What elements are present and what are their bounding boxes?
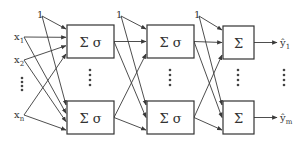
bias-label: 1 bbox=[37, 9, 43, 20]
output-ellipsis bbox=[283, 79, 286, 82]
connection-arrow bbox=[199, 16, 222, 105]
vertical-ellipsis bbox=[237, 84, 240, 87]
connection-arrow bbox=[42, 16, 66, 29]
node-label: Σ bbox=[234, 36, 243, 51]
node-label: Σ σ bbox=[159, 35, 181, 50]
connection-arrow bbox=[194, 118, 222, 131]
vertical-ellipsis bbox=[169, 84, 172, 87]
connection-arrow bbox=[121, 16, 146, 29]
output-label-m: ŷm bbox=[279, 112, 293, 126]
input-label-x1: x1 bbox=[14, 31, 24, 45]
vertical-ellipsis bbox=[169, 79, 172, 82]
layer-nodes: Σ σΣ σΣ σΣ σΣΣ bbox=[67, 25, 254, 134]
vertical-ellipsis bbox=[89, 74, 92, 77]
connection-arrow bbox=[24, 60, 66, 122]
connection-arrow bbox=[114, 54, 146, 118]
input-ellipsis bbox=[21, 81, 24, 84]
vertical-ellipsis bbox=[237, 69, 240, 72]
bias-label: 1 bbox=[116, 9, 122, 20]
connection-arrow bbox=[114, 42, 146, 118]
input-label-xn: xn bbox=[14, 109, 25, 123]
node-label: Σ σ bbox=[159, 111, 181, 126]
input-ellipsis bbox=[21, 85, 24, 88]
vertical-ellipsis bbox=[89, 84, 92, 87]
vertical-ellipsis bbox=[237, 79, 240, 82]
connection-arrow bbox=[24, 54, 66, 115]
connection-arrow bbox=[114, 118, 146, 131]
vertical-ellipsis bbox=[237, 74, 240, 77]
output-ellipsis bbox=[283, 69, 286, 72]
output-ellipsis bbox=[283, 74, 286, 77]
node-label: Σ σ bbox=[79, 35, 101, 50]
vertical-ellipsis bbox=[169, 74, 172, 77]
connection-arrow bbox=[24, 37, 66, 113]
connection-arrow bbox=[194, 42, 222, 43]
neural-network-diagram: Σ σΣ σΣ σΣ σΣΣ 111x1x2xnŷ1ŷm bbox=[0, 0, 304, 141]
connection-arrow bbox=[24, 115, 66, 130]
input-label-x2: x2 bbox=[14, 54, 24, 68]
output-ellipsis bbox=[283, 84, 286, 87]
input-ellipsis bbox=[21, 89, 24, 92]
vertical-ellipsis bbox=[89, 79, 92, 82]
node-label: Σ σ bbox=[79, 111, 101, 126]
vertical-ellipsis bbox=[169, 69, 172, 72]
connection-arrow bbox=[194, 55, 222, 118]
node-label: Σ bbox=[234, 111, 243, 126]
output-label-1: ŷ1 bbox=[279, 37, 290, 51]
input-ellipsis bbox=[21, 77, 24, 80]
bias-label: 1 bbox=[194, 9, 200, 20]
connection-arrow bbox=[194, 42, 222, 118]
vertical-ellipsis bbox=[89, 69, 92, 72]
